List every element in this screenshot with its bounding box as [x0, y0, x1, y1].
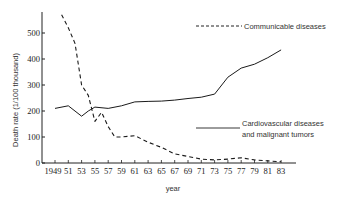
series-cardiovascular-malignant [55, 50, 281, 116]
y-axis: 0100200300400500 [27, 12, 45, 168]
x-axis: 19495153555759616365676971737577798183 [42, 160, 296, 176]
series-communicable-diseases [62, 15, 282, 162]
y-tick-label: 0 [36, 158, 40, 168]
line-chart: 0100200300400500 19495153555759616365676… [0, 0, 342, 204]
x-tick-label: 1949 [45, 166, 62, 176]
y-tick-label: 100 [27, 132, 40, 142]
y-tick-label: 200 [27, 106, 40, 116]
x-tick-label: 77 [237, 166, 246, 176]
x-tick-label: 79 [250, 166, 259, 176]
x-tick-label: 51 [64, 166, 73, 176]
x-tick-label: 83 [277, 166, 286, 176]
legend-label-cardio-line1: Cardiovascular diseases [242, 119, 324, 128]
y-tick-label: 500 [27, 28, 40, 38]
y-tick-label: 300 [27, 80, 40, 90]
x-tick-label: 55 [91, 166, 100, 176]
legend-label-communicable: Communicable diseases [244, 22, 326, 31]
x-tick-label: 71 [197, 166, 206, 176]
x-tick-label: 63 [144, 166, 153, 176]
x-axis-title: year [166, 184, 181, 193]
x-tick-label: 81 [264, 166, 273, 176]
y-tick-label: 400 [27, 54, 40, 64]
y-axis-title: Death rate (1/100 thousand) [11, 53, 20, 147]
legend-cardio: Cardiovascular diseases and malignant tu… [196, 119, 324, 139]
x-tick-label: 75 [224, 166, 233, 176]
legend-communicable: Communicable diseases [196, 22, 326, 31]
x-tick-label: 65 [157, 166, 166, 176]
legend-label-cardio-line2: and malignant tumors [242, 130, 314, 139]
x-tick-label: 59 [117, 166, 126, 176]
x-tick-label: 61 [131, 166, 140, 176]
x-tick-label: 53 [77, 166, 86, 176]
x-tick-label: 57 [104, 166, 113, 176]
series-layer [55, 15, 281, 162]
x-tick-label: 67 [170, 166, 179, 176]
x-tick-label: 73 [210, 166, 219, 176]
x-tick-label: 69 [184, 166, 193, 176]
